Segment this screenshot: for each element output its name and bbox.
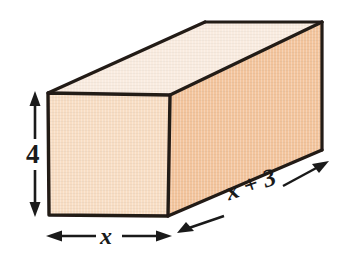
width-arrowhead-left bbox=[46, 231, 62, 242]
depth-arrow-shaft-upper bbox=[283, 166, 320, 186]
figure-container: 4 x x + 3 bbox=[0, 0, 344, 255]
height-arrowhead-down bbox=[30, 202, 41, 217]
prism-diagram-svg bbox=[0, 0, 344, 255]
depth-arrowhead-upper-right bbox=[312, 161, 329, 173]
width-dimension-label: x bbox=[100, 224, 112, 248]
prism-body bbox=[48, 22, 322, 216]
height-arrowhead-up bbox=[30, 91, 41, 106]
front-face-texture bbox=[48, 93, 170, 216]
height-dimension-label: 4 bbox=[26, 141, 39, 168]
width-arrowhead-right bbox=[156, 231, 172, 242]
depth-arrow-shaft-lower bbox=[186, 216, 224, 229]
